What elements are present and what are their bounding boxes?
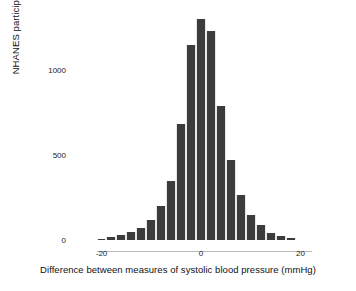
histogram-bar (186, 45, 196, 241)
x-axis-tick-label: 0 (181, 249, 221, 259)
y-axis-tick-labels: 05001000 (28, 0, 66, 291)
histogram-bar (106, 237, 116, 240)
histogram-bar (286, 238, 296, 240)
histogram-bar (226, 160, 236, 240)
y-axis-tick-label: 1000 (32, 66, 66, 75)
histogram-bar (276, 236, 286, 240)
histogram-bar (126, 232, 136, 240)
histogram-bar (176, 124, 186, 240)
histogram-bar (236, 195, 246, 240)
histogram-bar (146, 220, 156, 240)
x-axis-tick-label: -20 (82, 249, 122, 259)
plot-area (72, 12, 337, 240)
histogram-bar (136, 228, 146, 240)
histogram-bar (256, 225, 266, 240)
x-axis-tick-labels: -20020 (0, 249, 356, 261)
histogram-bar (206, 31, 216, 240)
y-axis-tick-label: 500 (32, 151, 66, 160)
histogram-bar (216, 106, 226, 240)
histogram-bar (156, 206, 166, 240)
histogram-bar (246, 215, 256, 240)
histogram-bar (116, 235, 126, 240)
x-axis-title: Difference between measures of systolic … (0, 264, 356, 275)
histogram-bar (97, 239, 107, 240)
histogram-figure: NHANES participants 05001000 -20020 Diff… (0, 0, 356, 291)
x-axis-tick-label: 20 (281, 249, 321, 259)
histogram-bar (266, 233, 276, 240)
histogram-bar (166, 181, 176, 241)
y-axis-title: NHANES participants (10, 0, 24, 88)
histogram-bar (196, 19, 206, 240)
y-axis-tick-label: 0 (32, 236, 66, 245)
